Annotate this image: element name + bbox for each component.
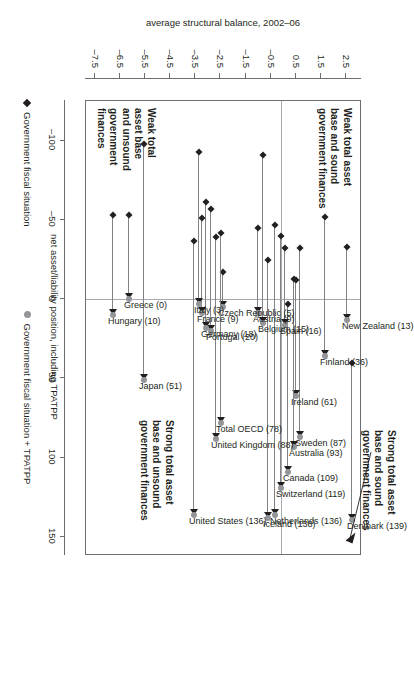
x-tick-label: 100 [47,449,58,465]
point-label: Greece (0) [124,300,167,310]
connector-line [351,363,352,520]
quadrant-annotation: Weak total asset base and unsound govern… [95,108,158,204]
y-tick-label: –7.5 [90,40,101,68]
y-tick-label: –6.5 [115,40,126,68]
quadrant-annotation: Strong total asset base and unsound gove… [138,420,176,560]
point-label: Belgium (15) [258,324,309,334]
y-tick [295,73,296,78]
y-tick [94,73,95,78]
connector-line [299,248,300,437]
marker-fiscal-situation [296,245,303,252]
connector-line [262,155,263,323]
marker-fiscal-situation [277,232,284,239]
connector-line [198,152,199,304]
x-tick-label: –50 [47,211,58,227]
marker-fiscal-situation [344,243,351,250]
point-label: Japan (51) [139,381,182,391]
point-label: Finland (36) [320,357,368,367]
marker-fiscal-situation [220,269,227,276]
marker-fiscal-situation [260,151,267,158]
point-label: Hungary (10) [108,316,161,326]
point-label: New Zealand (13) [342,321,414,331]
y-tick-label: –0.5 [265,40,276,68]
connector-line [293,279,294,447]
x-tick-label: –100 [47,129,58,150]
y-tick [144,73,145,78]
marker-fiscal-situation [191,237,198,244]
legend-label: Government fiscal situation + TPATPP [22,324,33,485]
y-tick [320,73,321,78]
connector-line [267,260,268,518]
marker-fiscal-situation [202,199,209,206]
point-label: Switzerland (119) [276,489,345,499]
point-label: Germany (18) [201,329,257,339]
y-tick-label: 1.5 [315,40,326,68]
point-label: Iceland (138) [263,519,316,529]
y-tick-label: –4.5 [165,40,176,68]
legend-item: Government fiscal situation + TPATPP [22,311,33,485]
legend-marker-circle-icon [24,311,31,318]
legend-marker-diamond-icon [23,99,31,107]
y-tick [345,73,346,78]
x-tick [60,140,65,141]
y-tick-label: –5.5 [140,40,151,68]
marker-fiscal-situation [255,224,262,231]
x-tick [60,377,65,378]
legend-label: Government fiscal situation [22,112,33,227]
marker-fiscal-situation [265,256,272,263]
point-label: Ireland (61) [291,397,337,407]
point-label: France (9) [197,314,239,324]
marker-fiscal-situation [196,148,203,155]
connector-line [128,215,129,299]
y-tick-label: –1.5 [240,40,251,68]
y-tick [169,73,170,78]
point-label: Canada (109) [284,473,339,483]
connector-line [346,247,347,320]
x-tick [60,219,65,220]
x-tick [60,536,65,537]
marker-fiscal-situation [281,245,288,252]
x-axis-title: net asset/liability position, including … [49,234,60,420]
y-tick [220,73,221,78]
point-label: Italy (3) [194,305,224,315]
x-tick [60,298,65,299]
marker-fiscal-situation [285,300,292,307]
connector-line [280,236,281,488]
y-tick [119,73,120,78]
quadrant-annotation: Strong total asset base and sound govern… [360,430,398,580]
connector-line [220,233,221,423]
y-tick [194,73,195,78]
connector-line [193,241,194,515]
x-axis-line [64,100,65,555]
x-tick-label: 150 [47,528,58,544]
y-tick [245,73,246,78]
point-label: United Kingdom (88) [211,440,294,450]
legend: Government fiscal situationGovernment fi… [22,100,33,484]
connector-line [295,280,296,396]
y-axis-line [85,78,361,79]
point-label: Total OECD (78) [216,424,282,434]
y-axis-title: average structural balance, 2002–06 [146,17,300,28]
marker-fiscal-situation [109,212,116,219]
y-tick-label: 2.5 [340,40,351,68]
y-tick-label: –3.5 [190,40,201,68]
connector-line [257,228,258,314]
y-tick-label: 0.5 [290,40,301,68]
y-tick-label: –2.5 [215,40,226,68]
connector-line [274,225,275,515]
point-label: Sweden (87) [295,438,346,448]
point-label: Australia (93) [289,448,343,458]
y-tick [270,73,271,78]
point-label: United States (136) [189,516,267,526]
connector-line [112,215,113,315]
marker-fiscal-situation [271,221,278,228]
x-tick [60,457,65,458]
marker-fiscal-situation [126,212,133,219]
marker-fiscal-situation [212,234,219,241]
legend-item: Government fiscal situation [22,100,33,227]
marker-fiscal-situation [207,205,214,212]
quadrant-annotation: Weak total asset base and sound governme… [316,108,354,218]
connector-line [324,217,325,357]
